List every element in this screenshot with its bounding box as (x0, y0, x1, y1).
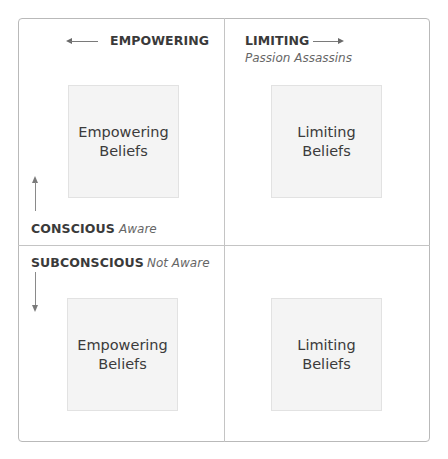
quadrant-top-right-limiting-beliefs: Limiting Beliefs (271, 85, 382, 198)
limiting-axis-label: LIMITING (245, 33, 309, 48)
vertical-divider (224, 18, 225, 442)
quadrant-title-line2: Beliefs (78, 142, 169, 161)
quadrant-top-left-empowering-beliefs: Empowering Beliefs (68, 85, 179, 198)
quadrant-title-line2: Beliefs (297, 355, 355, 374)
quadrant-title-line2: Beliefs (77, 355, 168, 374)
subconscious-axis-sublabel: Not Aware (147, 256, 210, 270)
quadrant-title-line1: Limiting (297, 123, 355, 142)
quadrant-bottom-right-limiting-beliefs: Limiting Beliefs (271, 298, 382, 411)
conscious-axis-label: CONSCIOUS (31, 221, 115, 236)
quadrant-title-line1: Empowering (77, 336, 168, 355)
limiting-axis-sublabel: Passion Assassins (245, 51, 352, 65)
conscious-axis-sublabel: Aware (119, 222, 157, 236)
horizontal-divider (18, 245, 430, 246)
quadrant-title-line2: Beliefs (297, 142, 355, 161)
empowering-axis-label: EMPOWERING (110, 33, 209, 48)
quadrant-bottom-left-empowering-beliefs: Empowering Beliefs (67, 298, 178, 411)
quadrant-title-line1: Limiting (297, 336, 355, 355)
quadrant-title-line1: Empowering (78, 123, 169, 142)
subconscious-axis-label: SUBCONSCIOUS (31, 255, 144, 270)
